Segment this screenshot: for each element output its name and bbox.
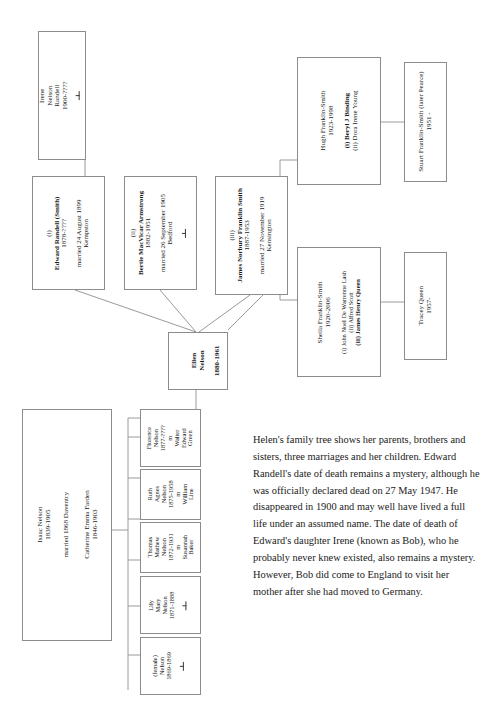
deceased-icon: [68, 81, 85, 110]
person-box-hugh-franklin-smith: Hugh Franklin-Smith 1923-1998 (i) Beryl …: [297, 57, 381, 185]
person-box-parents: Isaac Nelson 1839-1905 married 1868 Dave…: [22, 409, 112, 641]
irene-dates: 1900-????: [61, 81, 69, 110]
explanatory-note: Helen's family tree shows her parents, b…: [253, 432, 481, 600]
person-box-bertie-armstrong: (ii) Bertie MacVicar Armstrong 1882-1951…: [124, 176, 197, 290]
stuart-dates: 1951 -: [426, 72, 434, 173]
person-box-irene: Irene Nelson Randell 1900-????: [38, 31, 86, 160]
deceased-icon: [172, 652, 189, 680]
deceased-icon: [176, 591, 193, 619]
sheila-name: Sheila Franklin-Smith: [317, 271, 325, 354]
hugh-spouse-2: (ii) Dora Irene Young: [351, 91, 359, 151]
lily-dates: 1871-1888: [169, 591, 176, 619]
bertie-place: Bedford: [167, 191, 175, 275]
person-box-sheila-franklin-smith: Sheila Franklin-Smith 1920-2006 (i) John…: [297, 247, 381, 377]
ellen-dates: 1880-1961: [214, 346, 222, 376]
edward-dates: 1878-????: [61, 196, 69, 270]
mother-dates: 1846-1903: [91, 491, 99, 559]
family-tree-page: Irene Nelson Randell 1900-???? (i) Edwar…: [0, 0, 490, 718]
james-place: Kensington: [266, 188, 274, 282]
hugh-dates: 1923-1998: [327, 91, 335, 151]
person-box-thomas-nelson: Thomas Mathew Nelson 1872-1931 m Susanna…: [140, 522, 201, 573]
person-box-female-nelson: (female) Nelson 1869-1869: [140, 637, 201, 695]
ruth-spouse-2: Line: [188, 481, 195, 509]
bertie-dates: 1882-1951: [145, 191, 153, 275]
edward-place: Kempston: [83, 196, 91, 270]
person-box-ruth-nelson: Ruth Agnes Nelson 1875-1958 m William Li…: [140, 469, 201, 520]
person-box-edward-randell: (i) Edward Randell (Smith) 1878-???? mar…: [32, 176, 105, 290]
person-box-lily-nelson: Lily Mary Nelson 1871-1888: [140, 576, 201, 634]
person-box-james-franklin-smith: (iii) James Norbury Franklin Smith 1887-…: [215, 176, 288, 295]
bertie-ordinal: (ii): [130, 191, 138, 275]
thomas-spouse-2: Baker: [188, 534, 195, 562]
sheila-dates: 1920-2006: [324, 271, 332, 354]
person-box-stuart-franklin-smith: Stuart Franklin-Smith (later Pearce) 195…: [404, 62, 447, 182]
deceased-icon: [174, 191, 191, 275]
person-box-ellen-nelson: Ellen Nelson 1880-1961: [168, 332, 228, 390]
female-dates: 1869-1869: [165, 652, 172, 680]
person-box-florence-nelson: Florence Nelson 1877-???? m Walter Edwar…: [140, 409, 201, 467]
florence-spouse-3: Green: [188, 425, 195, 451]
person-box-tracey-queen: Tracey Queen 1957-: [404, 252, 447, 360]
tracey-dates: 1957-: [425, 286, 433, 325]
sheila-spouse-3: (iii) James Henry Queen: [355, 271, 362, 354]
